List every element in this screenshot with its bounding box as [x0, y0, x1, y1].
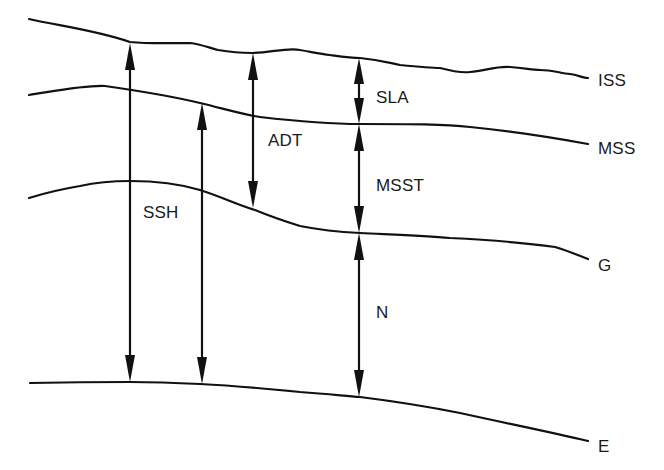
n-label: N — [376, 304, 388, 321]
sla-label: SLA — [376, 89, 409, 106]
ssh-label: SSH — [143, 204, 179, 221]
diagram-canvas — [0, 0, 664, 470]
mss-label: MSS — [598, 140, 635, 157]
adt-arrow — [248, 53, 258, 208]
sla-arrow — [354, 58, 364, 124]
iss-curve — [29, 19, 588, 78]
ssh-arrow-iss — [125, 43, 135, 382]
arrow-up-icon — [354, 233, 364, 260]
n-arrow — [354, 233, 364, 397]
ellipsoid-curve — [30, 382, 588, 441]
geoid-label: G — [598, 257, 611, 274]
arrow-down-icon — [354, 206, 364, 233]
geoid-curve — [29, 181, 588, 259]
arrow-down-icon — [354, 370, 364, 397]
ellipsoid-label: E — [598, 438, 610, 455]
arrow-down-icon — [125, 355, 135, 382]
arrow-up-icon — [125, 43, 135, 70]
arrow-up-icon — [248, 53, 258, 80]
ssh-arrow-mss — [197, 103, 207, 384]
iss-label: ISS — [598, 72, 626, 89]
arrow-up-icon — [354, 124, 364, 151]
arrow-down-icon — [197, 357, 207, 384]
arrow-up-icon — [197, 103, 207, 130]
adt-label: ADT — [268, 132, 303, 149]
arrow-down-icon — [354, 98, 364, 124]
arrow-up-icon — [354, 58, 364, 84]
msst-label: MSST — [376, 177, 424, 194]
msst-arrow — [354, 124, 364, 233]
mss-curve — [29, 86, 588, 144]
arrow-down-icon — [248, 181, 258, 208]
